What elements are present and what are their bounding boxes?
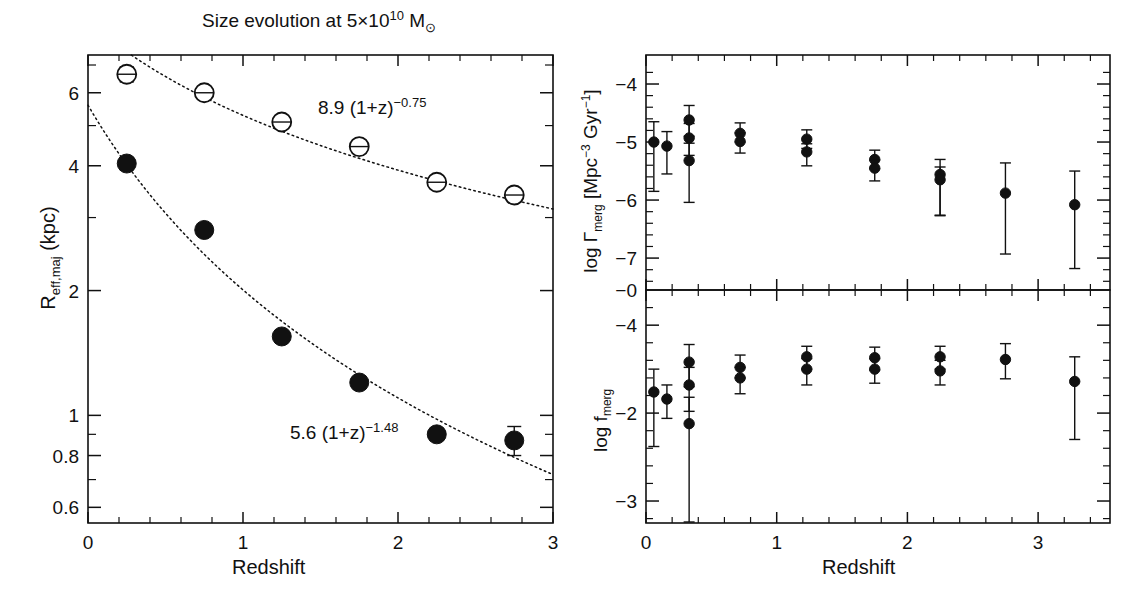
- left-point-filled: [350, 373, 369, 392]
- left-xtick-label: 3: [548, 532, 559, 553]
- merger-rate-point: [1070, 200, 1080, 210]
- merger-rate-point: [802, 147, 812, 157]
- ylabel-units: (kpc): [37, 206, 59, 256]
- title-exponent: 10: [390, 8, 404, 23]
- right-panel-xlabel: Redshift: [822, 556, 895, 579]
- right-top-ytick-label: −4: [615, 74, 637, 95]
- merger-rate-point: [735, 136, 745, 146]
- xlabel-text: Redshift: [232, 556, 305, 578]
- merger-fraction-point: [1000, 354, 1010, 364]
- left-fit-curve: [131, 55, 553, 209]
- left-ytick-label: 2: [68, 281, 79, 302]
- merger-rate-point: [1000, 188, 1010, 198]
- title-tail: M: [404, 10, 425, 31]
- left-point-filled: [505, 431, 524, 450]
- annotation-star-forming: 8.9 (1+z)−0.75: [318, 95, 426, 119]
- ylabel-gyr-exp: −1: [579, 95, 593, 109]
- left-ytick-label: 1: [68, 405, 79, 426]
- merger-rate-point: [935, 175, 945, 185]
- left-point-filled: [195, 220, 214, 239]
- title-subscript: ⊙: [425, 20, 436, 35]
- merger-fraction-point: [802, 364, 812, 374]
- left-ytick-label: 4: [68, 156, 79, 177]
- ylabel-subscript: eff,maj: [48, 256, 63, 295]
- annot-sf-exponent: −0.75: [394, 95, 427, 110]
- figure-root: 01230.60.812460123−4−5−6−7−0−4−2−3 Size …: [0, 0, 1125, 599]
- left-xtick-label: 1: [238, 532, 249, 553]
- merger-fraction-point: [870, 364, 880, 374]
- merger-fraction-point: [662, 394, 672, 404]
- right-xtick-label: 3: [1033, 532, 1044, 553]
- right-bottom-ytick-label: −4: [615, 315, 637, 336]
- left-ytick-label: 6: [68, 83, 79, 104]
- merger-fraction-point: [684, 418, 694, 428]
- merger-fraction-point: [684, 357, 694, 367]
- ylabel-units-mid: Gyr: [580, 108, 601, 144]
- right-xlabel-text: Redshift: [822, 556, 895, 578]
- ylabel-loggamma: log Γ: [580, 232, 601, 273]
- ylabel-mpc-exp: −3: [579, 144, 593, 158]
- title-main: Size evolution at 5×10: [202, 10, 390, 31]
- merger-rate-point: [649, 137, 659, 147]
- merger-fraction-point: [735, 373, 745, 383]
- right-top-ylabel: log Γmerg [Mpc−3 Gyr−1]: [579, 31, 605, 331]
- merger-rate-point: [870, 163, 880, 173]
- right-xtick-label: 0: [641, 532, 652, 553]
- figure-canvas: 01230.60.812460123−4−5−6−7−0−4−2−3: [0, 0, 1125, 599]
- annot-sf-base: 8.9 (1+z): [318, 97, 394, 118]
- left-xtick-label: 0: [83, 532, 94, 553]
- left-panel-ylabel: Reff,maj (kpc): [37, 148, 63, 368]
- merger-rate-point: [684, 155, 694, 165]
- annot-q-exponent: −1.48: [366, 420, 399, 435]
- merger-fraction-point: [684, 380, 694, 390]
- right-top-ytick-label: −7: [615, 248, 637, 269]
- annot-q-base: 5.6 (1+z): [290, 422, 366, 443]
- right-xtick-label: 1: [771, 532, 782, 553]
- ylabel-f-sub: merg: [600, 389, 614, 416]
- right-seam-ytick-label: −0: [615, 280, 637, 301]
- right-bottom-panel-frame: [646, 290, 1110, 523]
- left-xtick-label: 2: [393, 532, 404, 553]
- right-bottom-ytick-label: −2: [615, 403, 637, 424]
- right-bottom-ylabel: log fmerg: [590, 340, 615, 500]
- left-panel-frame: [88, 55, 553, 523]
- merger-fraction-point: [935, 366, 945, 376]
- ylabel-R: R: [37, 295, 59, 309]
- merger-rate-point: [684, 133, 694, 143]
- left-panel-title: Size evolution at 5×1010 M⊙: [202, 8, 436, 35]
- left-point-filled: [117, 154, 136, 173]
- merger-fraction-point: [649, 387, 659, 397]
- right-xtick-label: 2: [902, 532, 913, 553]
- merger-fraction-point: [1070, 376, 1080, 386]
- ylabel-logf: log f: [590, 416, 611, 452]
- annotation-quiescent: 5.6 (1+z)−1.48: [290, 420, 398, 444]
- left-ytick-label: 0.6: [53, 497, 79, 518]
- ylabel-units-open: [Mpc: [580, 158, 601, 204]
- ylabel-units-close: ]: [580, 89, 601, 94]
- left-point-filled: [427, 425, 446, 444]
- right-top-ytick-label: −6: [615, 190, 637, 211]
- right-bottom-ytick-label: −3: [615, 491, 637, 512]
- left-panel-xlabel: Redshift: [232, 556, 305, 579]
- left-point-filled: [272, 327, 291, 346]
- merger-rate-point: [662, 141, 672, 151]
- left-ytick-label: 0.8: [53, 446, 79, 467]
- merger-rate-point: [802, 134, 812, 144]
- ylabel-gamma-sub: merg: [591, 204, 605, 231]
- right-top-ytick-label: −5: [615, 132, 637, 153]
